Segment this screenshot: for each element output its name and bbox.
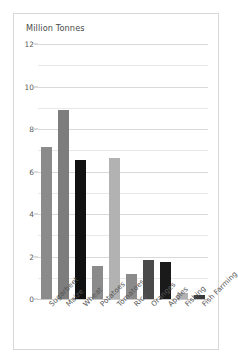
bar xyxy=(58,110,69,299)
bar xyxy=(41,147,52,299)
chart-title: Million Tonnes xyxy=(26,23,85,33)
y-axis-tick-label: 10 xyxy=(25,82,34,91)
plot-area: 024681012 SugarbeetMaizeWheatPotatoesTom… xyxy=(38,44,208,299)
bar-series xyxy=(38,44,208,299)
chart-card: Million Tonnes 024681012 SugarbeetMaizeW… xyxy=(13,13,219,350)
y-axis-tick-label: 12 xyxy=(25,40,34,49)
x-axis-labels: SugarbeetMaizeWheatPotatoesTomatoesRiceO… xyxy=(38,299,208,364)
bar xyxy=(109,158,120,299)
